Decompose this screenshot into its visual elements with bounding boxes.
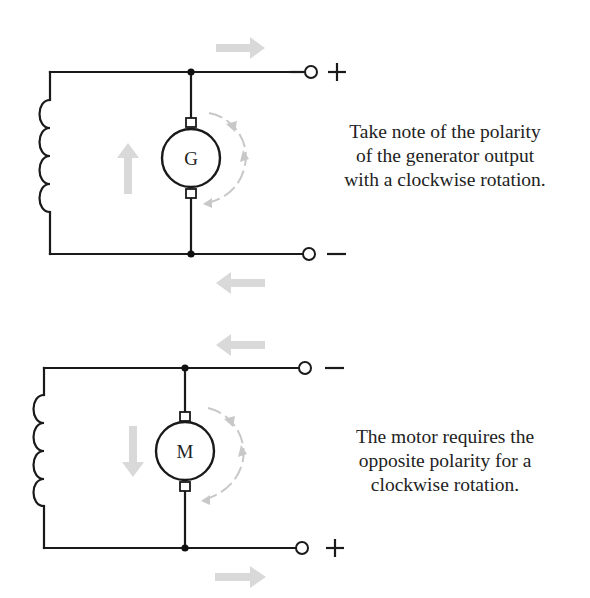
junction-dot-icon [187,68,194,75]
motor-negative-terminal [299,362,311,374]
brush-icon [186,189,196,198]
current-flow-arrow-right-icon [215,566,266,588]
field-current-arrow-down-icon [122,426,144,477]
caption-line: Take note of the polarity [305,120,585,144]
plus-sign-icon [328,63,346,81]
brush-icon [180,482,190,491]
generator-field-coil-icon [40,100,51,212]
motor-label: M [177,441,194,462]
motor-positive-terminal [296,542,308,554]
current-flow-arrow-left-icon [216,272,265,294]
brush-icon [180,412,190,421]
generator-positive-terminal [305,66,317,78]
motor-circuit: M [34,334,345,588]
plus-sign-icon [326,539,344,557]
junction-dot-icon [187,250,194,257]
junction-dot-icon [181,544,188,551]
motor-field-coil-icon [34,395,45,506]
caption-line: opposite polarity for a [300,449,590,473]
junction-dot-icon [181,364,188,371]
generator-label: G [184,148,198,169]
caption-line: The motor requires the [300,425,590,449]
motor-caption: The motor requires the opposite polarity… [300,425,590,497]
caption-line: clockwise rotation. [300,473,590,497]
generator-circuit: G [40,37,347,294]
generator-negative-terminal [303,248,315,260]
caption-line: of the generator output [305,144,585,168]
shunt-dc-machine-diagram: G [0,0,590,598]
caption-line: with a clockwise rotation. [305,168,585,192]
field-current-arrow-up-icon [117,143,139,194]
current-flow-arrow-right-icon [216,37,265,59]
current-flow-arrow-left-icon [216,334,265,356]
brush-icon [186,118,196,127]
generator-caption: Take note of the polarity of the generat… [305,120,585,192]
